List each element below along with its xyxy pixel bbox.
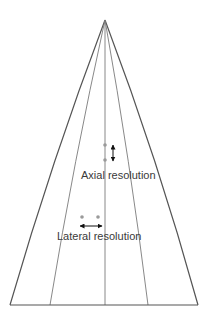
axial-resolution-label: Axial resolution	[81, 169, 156, 181]
scan-line-right	[105, 20, 148, 305]
lateral-target-dot-right	[96, 215, 100, 219]
sector-diagram	[0, 0, 210, 319]
axial-target-dot-bottom	[103, 158, 107, 162]
axial-target-dot-top	[103, 143, 107, 147]
scan-line-left	[50, 20, 105, 305]
sector-outer-right-edge	[105, 20, 198, 305]
lateral-resolution-label: Lateral resolution	[57, 230, 141, 242]
lateral-target-dot-left	[80, 215, 84, 219]
